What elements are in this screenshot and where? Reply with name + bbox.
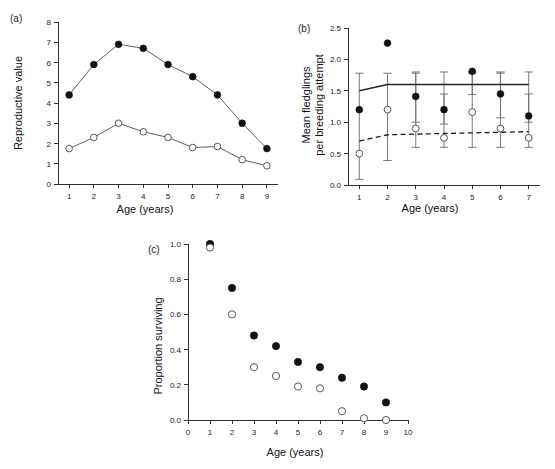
y-tick-label: 0.0 <box>330 181 342 190</box>
x-tick-label: 10 <box>404 428 413 437</box>
panel-b-yaxis-title-line1: Mean fledglings <box>300 66 312 144</box>
x-tick-label: 2 <box>230 428 235 437</box>
y-tick-label: 2.5 <box>330 24 342 33</box>
data-point-filled <box>294 358 301 365</box>
x-tick-label: 7 <box>340 428 345 437</box>
x-tick-label: 4 <box>274 428 279 437</box>
panel-a-axes: 123456789012345678 <box>47 18 278 201</box>
panel-c-axes: 0123456789100.00.20.40.60.81.0 <box>170 240 413 437</box>
data-point-filled <box>165 61 172 68</box>
data-point-filled <box>263 145 270 152</box>
y-tick-label: 7 <box>47 38 52 47</box>
panel-a-yaxis-title: Reproductive value <box>12 56 24 150</box>
x-tick-label: 8 <box>362 428 367 437</box>
panel-a: (a) 123456789012345678 Age (years) Repro… <box>0 0 290 228</box>
x-tick-label: 7 <box>526 193 531 202</box>
data-point-open <box>272 372 279 379</box>
x-tick-label: 3 <box>116 192 121 201</box>
data-point-filled <box>250 332 257 339</box>
data-point-open <box>228 311 235 318</box>
data-point-open <box>338 408 345 415</box>
x-tick-label: 3 <box>252 428 257 437</box>
data-point-open <box>384 106 391 113</box>
y-tick-label: 1.5 <box>330 87 342 96</box>
x-tick-label: 6 <box>318 428 323 437</box>
panel-c-plot: (c) 0123456789100.00.20.40.60.81.0 Age (… <box>120 228 440 469</box>
x-tick-label: 9 <box>265 192 270 201</box>
data-point-filled <box>469 68 476 75</box>
x-tick-label: 8 <box>240 192 245 201</box>
x-tick-label: 1 <box>67 192 72 201</box>
data-point-filled <box>525 113 532 120</box>
data-point-open <box>214 143 221 150</box>
y-tick-label: 0.8 <box>170 275 182 284</box>
data-point-open <box>250 364 257 371</box>
y-tick-label: 0.0 <box>170 416 182 425</box>
data-point-filled <box>497 91 504 98</box>
y-tick-label: 0 <box>47 180 52 189</box>
series-line-open-circles <box>69 123 267 166</box>
data-point-open <box>497 125 504 132</box>
data-point-filled <box>140 45 147 52</box>
data-point-filled <box>189 73 196 80</box>
data-point-open <box>91 134 98 141</box>
x-tick-label: 5 <box>296 428 301 437</box>
panel-b-yaxis-title-line2: per breeding attempt <box>313 54 325 156</box>
figure-three-panel: (a) 123456789012345678 Age (years) Repro… <box>0 0 555 469</box>
panel-b-series <box>355 40 533 180</box>
y-tick-label: 3 <box>47 119 52 128</box>
y-tick-label: 0.5 <box>330 150 342 159</box>
panel-b-xaxis-title: Age (years) <box>402 202 459 214</box>
x-tick-label: 2 <box>385 193 390 202</box>
data-point-filled <box>272 342 279 349</box>
data-point-filled <box>239 120 246 127</box>
y-tick-label: 0.4 <box>170 346 182 355</box>
data-point-open <box>264 162 271 169</box>
panel-c-label: (c) <box>148 244 160 255</box>
data-point-filled <box>384 40 391 47</box>
data-point-open <box>356 150 363 157</box>
panel-b-plot: (b) 12345670.00.51.01.52.02.5 Age (years… <box>290 0 555 228</box>
y-tick-label: 0.2 <box>170 381 182 390</box>
data-point-filled <box>360 383 367 390</box>
data-point-open <box>115 120 122 127</box>
panel-b-label: (b) <box>298 23 310 34</box>
data-point-open <box>441 135 448 142</box>
data-point-open <box>239 156 246 163</box>
data-point-open <box>206 244 213 251</box>
x-tick-label: 1 <box>357 193 362 202</box>
data-point-open <box>189 144 196 151</box>
data-point-open <box>360 415 367 422</box>
x-tick-label: 6 <box>498 193 503 202</box>
y-tick-label: 0.6 <box>170 310 182 319</box>
data-point-open <box>294 383 301 390</box>
x-tick-label: 5 <box>470 193 475 202</box>
x-tick-label: 4 <box>442 193 447 202</box>
data-point-open <box>469 109 476 116</box>
data-point-filled <box>115 41 122 48</box>
panel-b-axes: 12345670.00.51.01.52.02.5 <box>330 24 540 202</box>
panel-a-series <box>66 41 271 169</box>
data-point-filled <box>412 93 419 100</box>
x-tick-label: 6 <box>190 192 195 201</box>
panel-a-plot: (a) 123456789012345678 Age (years) Repro… <box>0 0 290 228</box>
data-point-open <box>412 125 419 132</box>
y-tick-label: 8 <box>47 18 52 27</box>
x-tick-label: 2 <box>92 192 97 201</box>
panel-c: (c) 0123456789100.00.20.40.60.81.0 Age (… <box>120 228 440 469</box>
x-tick-label: 4 <box>141 192 146 201</box>
y-tick-label: 4 <box>47 99 52 108</box>
x-tick-label: 5 <box>166 192 171 201</box>
data-point-open <box>66 145 73 152</box>
data-point-filled <box>338 374 345 381</box>
data-point-open <box>165 134 172 141</box>
data-point-filled <box>90 61 97 68</box>
data-point-filled <box>382 399 389 406</box>
data-point-open <box>382 416 389 423</box>
data-point-filled <box>441 106 448 113</box>
data-point-filled <box>214 92 221 99</box>
data-point-open <box>140 128 147 135</box>
data-point-filled <box>228 284 235 291</box>
y-tick-label: 2 <box>47 140 52 149</box>
x-tick-label: 7 <box>215 192 220 201</box>
